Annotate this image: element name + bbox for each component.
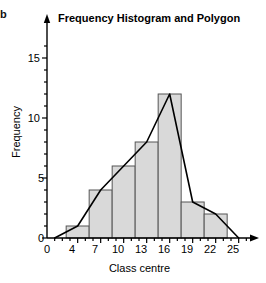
histogram-bar [181, 202, 204, 238]
histogram-bar [66, 226, 89, 238]
histogram-bar [89, 190, 112, 238]
histogram-bar [135, 142, 158, 238]
histogram-bar [158, 94, 181, 238]
histogram-bars [66, 94, 227, 238]
frequency-histogram-figure: b Frequency Histogram and Polygon Freque… [0, 0, 266, 283]
histogram-bar [204, 214, 227, 238]
x-axis-arrowhead [250, 235, 259, 242]
histogram-bar [112, 166, 135, 238]
y-axis-arrowhead [44, 14, 50, 23]
chart-plot-area [0, 0, 266, 283]
